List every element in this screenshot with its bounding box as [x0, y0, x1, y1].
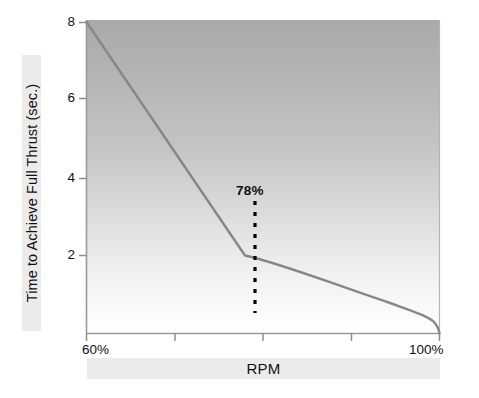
y-tick-label-8: 8: [53, 14, 75, 29]
chart-figure: Time to Achieve Full Thrust (sec.) RPM: [0, 0, 479, 398]
y-tick-label-6: 6: [53, 90, 75, 105]
x-tick-label-max: 100%: [409, 342, 444, 357]
plot-background: [86, 20, 440, 333]
plot-area: [0, 0, 479, 398]
y-tick-label-2: 2: [53, 247, 75, 262]
annotation-label-78-percent: 78%: [236, 183, 264, 198]
y-tick-label-4: 4: [53, 170, 75, 185]
x-tick-label-min: 60%: [82, 342, 109, 357]
